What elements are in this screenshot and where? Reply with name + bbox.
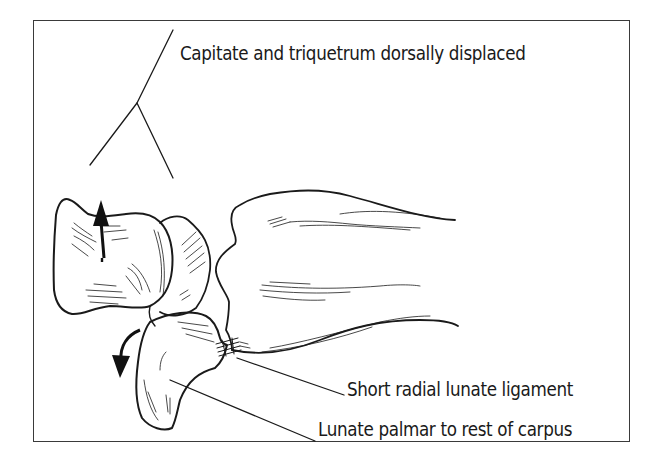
label-capitate-triquetrum: Capitate and triquetrum dorsally displac…: [180, 44, 525, 64]
short-radial-lunate-ligament: [216, 338, 241, 356]
capitate-bone: [54, 199, 173, 326]
label-short-radial-lunate-ligament: Short radial lunate ligament: [347, 380, 573, 400]
label-lunate-palmar: Lunate palmar to rest of carpus: [318, 420, 572, 440]
triquetrum-leader-line: [137, 103, 173, 178]
palmar-rotation-arrow: [112, 330, 140, 378]
lunate-bone: [136, 313, 227, 430]
radius-bone: [216, 191, 458, 353]
dorsal-displacement-arrow: [93, 200, 109, 262]
lunate-leader-line: [170, 380, 315, 441]
capitate-leader-line: [90, 30, 173, 165]
ligament-leader-line: [237, 358, 344, 395]
leader-lines: [90, 30, 344, 441]
